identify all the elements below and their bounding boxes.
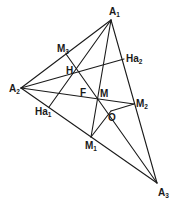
label-ha2: Ha2 xyxy=(126,53,143,65)
label-h: H xyxy=(66,65,73,76)
label-m3: M3 xyxy=(57,43,69,55)
label-a3: A3 xyxy=(158,187,169,199)
median-a2-m2 xyxy=(21,88,134,104)
triangle-diagram: A1 A2 A3 M3 Ha2 H F M M2 O Ha1 M1 xyxy=(0,0,178,203)
label-a2: A2 xyxy=(9,83,20,95)
label-a1: A1 xyxy=(109,6,120,18)
label-o: O xyxy=(108,112,116,123)
label-f: F xyxy=(80,87,86,98)
label-m1: M1 xyxy=(85,140,97,152)
label-m2: M2 xyxy=(136,98,148,110)
label-m: M xyxy=(100,88,108,99)
bisector-m2-o xyxy=(111,104,134,111)
